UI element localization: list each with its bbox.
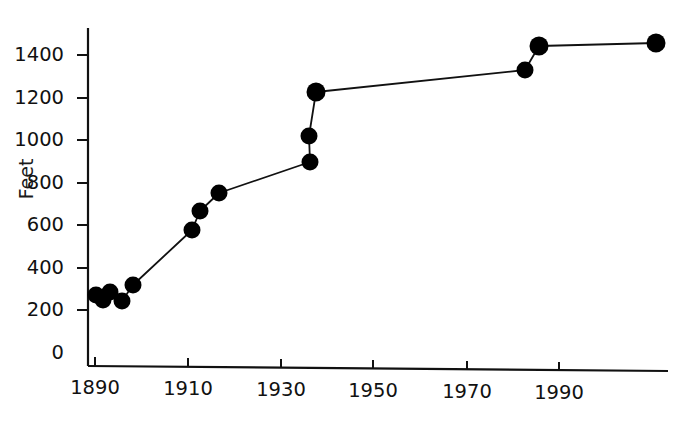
axis-lines: [88, 28, 668, 371]
data-point[interactable]: [184, 222, 201, 239]
plot-area: [0, 0, 673, 426]
data-point[interactable]: [530, 37, 549, 56]
data-points: [88, 34, 666, 310]
data-point[interactable]: [302, 154, 319, 171]
chart-container: Feet 1400 1200 1000 800 600 400 200 0 18…: [0, 0, 673, 426]
y-axis-ticks: [77, 55, 88, 310]
data-line: [96, 43, 656, 301]
x-axis-line: [88, 366, 668, 371]
data-point[interactable]: [301, 128, 318, 145]
data-point[interactable]: [647, 34, 666, 53]
data-point[interactable]: [192, 203, 209, 220]
data-point[interactable]: [211, 185, 228, 202]
data-point[interactable]: [114, 293, 131, 310]
data-point[interactable]: [517, 62, 534, 79]
data-point[interactable]: [307, 83, 326, 102]
data-point[interactable]: [125, 277, 142, 294]
